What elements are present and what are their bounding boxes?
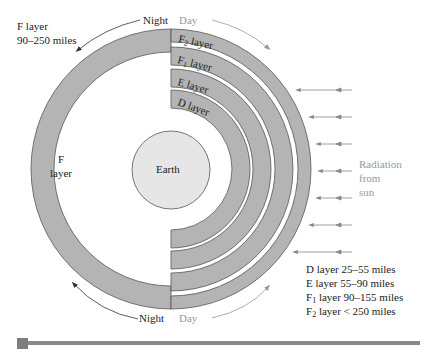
radiation-label-line1: Radiation	[359, 157, 402, 171]
earth-label: Earth	[156, 162, 180, 176]
radiation-label-line2: from	[359, 171, 402, 185]
radiation-label-line3: sun	[359, 185, 402, 199]
legend-d-layer: D layer 25–55 miles	[306, 262, 403, 276]
night-label-top: Night	[143, 13, 168, 27]
day-label-bottom: Day	[179, 311, 197, 325]
footer-square-marker	[17, 338, 28, 349]
legend-f2-layer: F2 layer < 250 miles	[306, 304, 403, 318]
f-layer-label-line1: F	[47, 152, 75, 166]
legend-f1-layer: F1 layer 90–155 miles	[306, 290, 403, 304]
f-layer-label: F layer	[47, 152, 75, 180]
footer-divider	[28, 341, 420, 345]
night-label-bottom: Night	[139, 311, 164, 325]
legend-f2-suffix: layer < 250 miles	[316, 305, 396, 317]
f-layer-label-line2: layer	[47, 166, 75, 180]
day-label-top: Day	[179, 13, 197, 27]
legend-e-layer: E layer 55–90 miles	[306, 276, 403, 290]
f-layer-title: F layer 90–250 miles	[17, 19, 77, 47]
radiation-label: Radiation from sun	[359, 157, 402, 199]
f-layer-title-line1: F layer	[17, 19, 77, 33]
altitude-legend: D layer 25–55 miles E layer 55–90 miles …	[306, 262, 403, 318]
f-layer-title-line2: 90–250 miles	[17, 33, 77, 47]
legend-f1-suffix: layer 90–155 miles	[316, 291, 403, 303]
